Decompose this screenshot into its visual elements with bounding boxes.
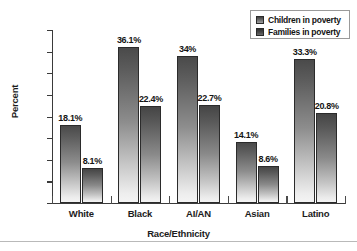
- bottom-divider: [0, 241, 357, 242]
- legend-swatch-icon-families: [256, 28, 264, 36]
- bar-value-label: 20.8%: [315, 101, 339, 111]
- bar-white-children: [60, 125, 81, 203]
- x-tick-mark: [52, 196, 53, 204]
- y-tick-mark: [47, 30, 52, 31]
- category-label-white: White: [52, 208, 111, 219]
- legend-label-children: Children in poverty: [268, 15, 341, 25]
- x-tick-mark: [111, 196, 112, 204]
- bar-value-label: 8.1%: [83, 156, 102, 166]
- x-tick-mark: [169, 196, 170, 204]
- y-tick-mark: [47, 95, 52, 96]
- category-label-latino: Latino: [286, 208, 345, 219]
- x-tick-mark: [228, 196, 229, 204]
- y-tick-mark: [47, 52, 52, 53]
- category-label-aian: AI/AN: [169, 208, 228, 219]
- bar-asian-children: [236, 142, 257, 203]
- legend-swatch-icon-children: [256, 16, 264, 24]
- bar-value-label: 33.3%: [293, 47, 317, 57]
- y-tick-mark: [47, 138, 52, 139]
- bar-value-label: 22.4%: [139, 94, 163, 104]
- legend-item-families: Families in poverty: [256, 26, 349, 37]
- x-axis-line: [52, 203, 345, 204]
- bar-white-families: [82, 168, 103, 203]
- bar-value-label: 36.1%: [117, 35, 141, 45]
- bar-black-families: [140, 106, 161, 203]
- category-label-asian: Asian: [228, 208, 287, 219]
- bar-aian-families: [199, 105, 220, 203]
- x-axis-title: Race/Ethnicity: [0, 228, 357, 239]
- category-label-black: Black: [111, 208, 170, 219]
- y-tick-mark: [47, 117, 52, 118]
- bar-latino-children: [294, 59, 315, 203]
- x-tick-mark: [345, 196, 346, 204]
- chart-legend: Children in poverty Families in poverty: [250, 10, 350, 39]
- bar-value-label: 14.1%: [234, 130, 258, 140]
- bar-aian-children: [177, 56, 198, 203]
- y-axis-title: Percent: [9, 67, 20, 137]
- bar-value-label: 8.6%: [258, 154, 277, 164]
- legend-label-families: Families in poverty: [268, 27, 340, 37]
- y-axis-line: [52, 30, 53, 204]
- bar-value-label: 22.7%: [197, 93, 221, 103]
- y-tick-mark: [47, 73, 52, 74]
- bar-asian-families: [258, 166, 279, 203]
- y-tick-mark: [47, 160, 52, 161]
- bar-value-label: 34%: [179, 44, 196, 54]
- bar-chart-figure: Percent Race/Ethnicity 0510152025303540 …: [0, 0, 357, 251]
- x-tick-mark: [286, 196, 287, 204]
- bar-value-label: 18.1%: [58, 113, 82, 123]
- legend-item-children: Children in poverty: [256, 14, 349, 25]
- bar-black-children: [118, 47, 139, 203]
- y-tick-mark: [47, 181, 52, 182]
- bar-latino-families: [316, 113, 337, 203]
